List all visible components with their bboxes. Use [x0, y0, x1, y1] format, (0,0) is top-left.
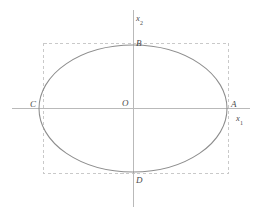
point-label-d: D: [136, 176, 143, 185]
y-axis-label: x2: [136, 14, 143, 25]
point-label-c: C: [30, 100, 36, 109]
x-axis-label-subscript: 1: [240, 120, 243, 126]
point-label-b: B: [136, 39, 142, 48]
x-axis-label: x1: [236, 114, 243, 125]
y-axis-label-subscript: 2: [140, 20, 143, 26]
ellipse-figure: x2 x1 B A C D O: [0, 0, 260, 216]
point-label-origin: O: [122, 99, 129, 108]
point-label-a: A: [231, 100, 237, 109]
figure-canvas: [0, 0, 260, 216]
